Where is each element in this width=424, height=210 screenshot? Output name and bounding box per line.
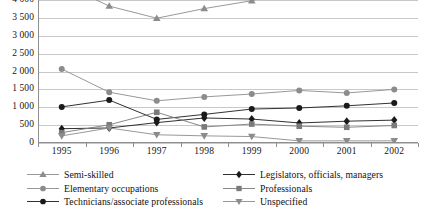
y-axis-tick-label: 4 000 (0, 0, 34, 5)
legend-marker-square-icon (222, 182, 256, 195)
data-point-marker (106, 89, 112, 95)
data-point-marker (296, 123, 302, 129)
data-point-marker (344, 103, 350, 109)
data-point-marker (391, 100, 397, 106)
legend-column-right: Legislators, officials, managersProfessi… (222, 168, 383, 209)
legend-column-left: Semi-skilledElementary occupationsTechni… (26, 168, 203, 209)
data-point-marker (248, 0, 256, 3)
y-axis-tick-label: 2 500 (0, 49, 34, 59)
y-axis-tick-label: 1 000 (0, 102, 34, 112)
data-point-marker (296, 87, 302, 93)
data-point-marker (106, 97, 112, 103)
x-axis-tick-label: 2001 (323, 146, 371, 156)
plot-area (38, 0, 418, 143)
data-point-marker (154, 109, 160, 115)
series-layer (38, 0, 418, 143)
legend-label: Elementary occupations (60, 183, 158, 194)
legend-item[interactable]: Elementary occupations (26, 182, 203, 196)
y-axis-line (38, 0, 39, 143)
x-axis-tick-label: 1997 (133, 146, 181, 156)
data-point-marker (296, 105, 302, 111)
data-point-marker (391, 86, 397, 92)
data-point-marker (344, 90, 350, 96)
y-axis-tick-label: 1 500 (0, 84, 34, 94)
chart-legend: Semi-skilledElementary occupationsTechni… (0, 168, 424, 210)
data-point-marker (344, 117, 350, 125)
legend-item[interactable]: Unspecified (222, 195, 383, 209)
series-line (62, 100, 395, 119)
legend-label: Professionals (256, 183, 312, 194)
legend-label: Legislators, officials, managers (256, 169, 383, 180)
legend-item[interactable]: Professionals (222, 182, 383, 196)
line-chart: 05001 0001 5002 0002 5003 0003 5004 000 … (0, 0, 424, 210)
x-axis-tick-label: 1996 (85, 146, 133, 156)
series-line (62, 0, 395, 18)
data-point-marker (200, 133, 208, 140)
data-point-marker (344, 124, 350, 130)
x-axis-tick-label: 1995 (38, 146, 86, 156)
legend-item[interactable]: Legislators, officials, managers (222, 168, 383, 182)
data-point-marker (105, 2, 113, 9)
data-point-marker (153, 132, 161, 139)
data-point-marker (249, 121, 255, 127)
y-axis-tick-label: 3 000 (0, 31, 34, 41)
legend-marker-circle-filled-icon (26, 195, 60, 208)
legend-label: Semi-skilled (60, 169, 114, 180)
legend-marker-triangle-down-icon (222, 195, 256, 208)
x-axis-tick-label: 2000 (275, 146, 323, 156)
data-point-marker (201, 94, 207, 100)
legend-marker-triangle-up-icon (26, 168, 60, 181)
y-axis-tick-label: 2 000 (0, 67, 34, 77)
data-point-marker (201, 124, 207, 130)
legend-label: Unspecified (256, 196, 307, 207)
data-point-marker (249, 91, 255, 97)
x-axis-tick-label: 1999 (228, 146, 276, 156)
legend-item[interactable]: Semi-skilled (26, 168, 203, 182)
legend-marker-circle-icon (26, 182, 60, 195)
legend-marker-diamond-icon (222, 168, 256, 181)
y-axis-tick-label: 0 (0, 138, 34, 148)
x-axis-tick-label: 2002 (370, 146, 418, 156)
data-point-marker (249, 106, 255, 112)
legend-item[interactable]: Technicians/associate professionals (26, 195, 203, 209)
y-axis-tick-label: 500 (0, 120, 34, 130)
data-point-marker (154, 98, 160, 104)
data-point-marker (58, 133, 66, 140)
y-axis-tick-label: 3 500 (0, 13, 34, 23)
data-point-marker (391, 123, 397, 129)
data-point-marker (59, 66, 65, 72)
x-axis-tick-label: 1998 (180, 146, 228, 156)
data-point-marker (59, 104, 65, 110)
series-0 (62, 0, 395, 21)
series-line (62, 69, 395, 101)
legend-label: Technicians/associate professionals (60, 196, 203, 207)
